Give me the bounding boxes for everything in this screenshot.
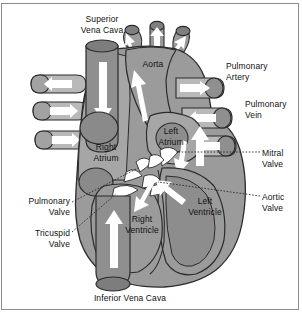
label-right-atrium: Right Atrium <box>86 142 126 163</box>
label-aortic-valve: Aortic Valve <box>262 192 302 213</box>
heart-anatomy-illustration <box>0 0 302 314</box>
heart-diagram-figure: Superior Vena Cava Aorta Pulmonary Arter… <box>0 0 302 314</box>
label-pulmonary-vein: Pulmonary Vein <box>245 99 302 120</box>
label-left-ventricle: Left Ventricle <box>180 196 230 217</box>
label-aorta: Aorta <box>136 59 170 70</box>
label-superior-vena-cava: Superior Vena Cava <box>68 14 136 35</box>
vena-cava-branch-upper <box>31 75 86 93</box>
pulmonary-artery <box>176 78 224 98</box>
label-pulmonary-valve: Pulmonary Valve <box>8 196 70 217</box>
label-right-ventricle: Right Ventricle <box>116 214 168 235</box>
label-mitral-valve: Mitral Valve <box>262 148 302 169</box>
label-inferior-vena-cava: Inferior Vena Cava <box>75 293 185 304</box>
label-tricuspid-valve: Tricuspid Valve <box>8 228 70 249</box>
inferior-vena-cava <box>96 196 130 291</box>
label-left-atrium: Left Atrium <box>152 126 190 147</box>
label-pulmonary-artery: Pulmonary Artery <box>226 61 298 82</box>
vena-cava-branch-mid <box>33 102 88 120</box>
right-atrium-chamber <box>80 112 118 144</box>
